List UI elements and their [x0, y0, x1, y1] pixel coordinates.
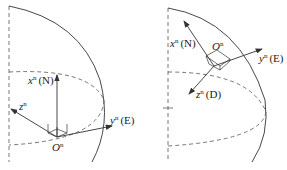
coordinate-frames-diagram: xn(N) yn(E) zn On xn(N) yn(E) zn(D) On — [0, 0, 287, 170]
y-axis-label: yn(E) — [258, 52, 284, 65]
z-axis — [11, 109, 57, 137]
earth-meridian-arc — [168, 8, 266, 162]
x-axis-label: xn(N) — [27, 74, 54, 87]
y-axis-east — [57, 126, 112, 137]
y-axis-east — [214, 49, 262, 66]
right-panel: xn(N) yn(E) zn(D) On — [163, 8, 284, 162]
origin-label: On — [212, 40, 224, 52]
origin-label: On — [52, 141, 64, 153]
latitude-circle-upper — [9, 72, 104, 100]
z-axis-label: zn — [18, 100, 27, 112]
z-axis-label: zn(D) — [195, 88, 221, 101]
y-axis-label: yn(E) — [109, 114, 135, 127]
left-panel: xn(N) yn(E) zn On — [9, 6, 135, 162]
latitude-circle-lower — [168, 112, 266, 146]
x-axis-label: xn(N) — [169, 37, 196, 50]
body-frame-box — [48, 124, 67, 137]
